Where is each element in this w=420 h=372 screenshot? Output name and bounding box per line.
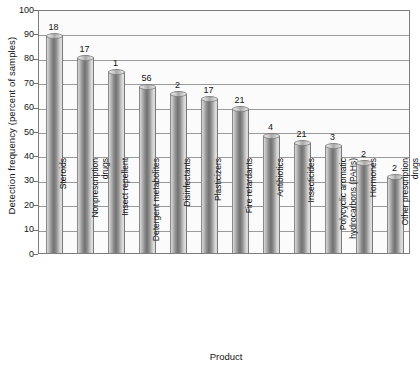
bar-value-label: 17: [68, 45, 102, 54]
bar-value-label: 4: [254, 123, 288, 132]
y-tick-label: 100: [6, 6, 34, 15]
y-tick-label: 60: [6, 103, 34, 112]
bar-top-cap: [108, 69, 125, 75]
bar-value-label: 2: [161, 81, 195, 90]
bar-top-cap: [170, 91, 187, 97]
x-tick-label: Steroids: [58, 158, 68, 258]
bar-value-label: 3: [316, 133, 350, 142]
bar-top-cap: [139, 84, 156, 90]
y-tick-label: 20: [6, 201, 34, 210]
x-tick-label: Plasticizers: [213, 158, 223, 258]
bar-top-cap: [201, 96, 218, 102]
y-tick-label: 40: [6, 152, 34, 161]
bar-value-label: 17: [192, 86, 226, 95]
x-tick-label: Antibiotics: [275, 158, 285, 258]
bar-value-label: 1: [99, 59, 133, 68]
gridline: [39, 133, 409, 134]
bar-top-cap: [46, 33, 63, 39]
y-tick-label: 70: [6, 79, 34, 88]
gridline: [39, 84, 409, 85]
x-axis-title: Product: [38, 351, 414, 362]
x-tick-label: Nonprescription drugs: [90, 158, 110, 258]
x-tick-label: Hormones: [368, 158, 378, 258]
bar-top-cap: [294, 140, 311, 146]
bar-top-cap: [263, 133, 280, 139]
x-tick-label: Disinfectants: [182, 158, 192, 258]
bar-top-cap: [232, 106, 249, 112]
bar-value-label: 21: [223, 96, 257, 105]
x-tick-label: Insecticides: [306, 158, 316, 258]
y-tick-mark: [33, 254, 38, 255]
x-tick-label: Other prescription drugs: [400, 158, 420, 258]
y-tick-label: 30: [6, 176, 34, 185]
bar-value-label: 21: [285, 130, 319, 139]
x-tick-label: Fire retardants: [244, 158, 254, 258]
bar-top-cap: [77, 55, 94, 61]
y-tick-label: 0: [6, 250, 34, 259]
y-tick-label: 50: [6, 128, 34, 137]
gridline: [39, 109, 409, 110]
y-tick-label: 90: [6, 30, 34, 39]
gridline: [39, 35, 409, 36]
gridline: [39, 60, 409, 61]
y-tick-label: 80: [6, 54, 34, 63]
x-tick-label: Polycyclic aromatic hydrocarbons (PAHs): [338, 158, 358, 258]
x-tick-label: Insect repellent: [120, 158, 130, 258]
bar-value-label: 18: [37, 23, 71, 32]
y-tick-label: 10: [6, 225, 34, 234]
bar-top-cap: [325, 143, 342, 149]
bar-value-label: 56: [130, 74, 164, 83]
x-tick-label: Detergent metabolites: [151, 158, 161, 258]
